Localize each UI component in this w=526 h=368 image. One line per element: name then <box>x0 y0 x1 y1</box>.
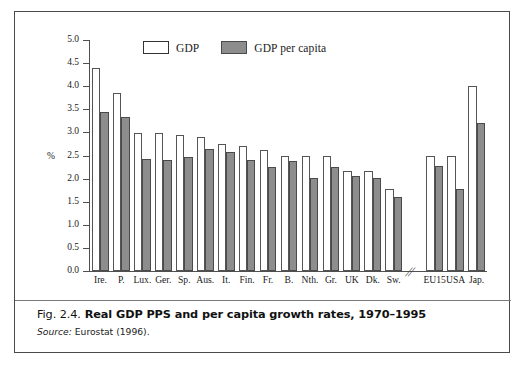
y-tick-label: 0.0 <box>53 265 79 275</box>
y-tick-label: 4.5 <box>53 57 79 67</box>
bar-gdp-per-capita <box>100 112 108 271</box>
bar-gdp <box>364 171 372 271</box>
y-tick-mark <box>83 40 89 41</box>
bar-gdp-per-capita <box>331 167 339 271</box>
bar-group <box>132 40 153 271</box>
bar-gdp <box>197 137 205 271</box>
caption-divider <box>15 300 511 301</box>
y-tick-mark <box>83 202 89 203</box>
caption-title-line: Fig. 2.4. Real GDP PPS and per capita gr… <box>37 308 487 321</box>
bar-group <box>383 40 404 271</box>
y-tick-label: 5.0 <box>53 34 79 44</box>
bar-group <box>424 40 445 271</box>
y-tick-mark <box>83 109 89 110</box>
bar-gdp <box>92 68 100 271</box>
y-tick-label: 3.5 <box>53 103 79 113</box>
bar-gdp <box>343 171 351 271</box>
y-tick-mark <box>83 179 89 180</box>
bar-group <box>445 40 466 271</box>
bar-gdp-per-capita <box>142 159 150 271</box>
x-tick-label: Jap. <box>464 274 490 285</box>
bar-group <box>216 40 237 271</box>
bar-gdp-per-capita <box>205 149 213 271</box>
y-tick-mark <box>83 248 89 249</box>
y-tick-mark <box>83 86 89 87</box>
bar-gdp <box>155 133 163 271</box>
source-text: Eurostat (1996). <box>75 326 150 337</box>
bar-group <box>153 40 174 271</box>
bar-group <box>466 40 487 271</box>
y-tick-label: 2.0 <box>53 173 79 183</box>
x-axis-labels: Ire.P.Lux.Ger.Sp.Aus.It.Fin.Fr.B.Nth.Gr.… <box>90 274 487 290</box>
x-tick-label: Sw. <box>381 274 407 285</box>
y-tick-mark <box>83 132 89 133</box>
y-tick-mark <box>83 63 89 64</box>
y-tick-mark <box>83 156 89 157</box>
y-tick-label: 4.0 <box>53 80 79 90</box>
bar-group <box>111 40 132 271</box>
bar-series-area <box>90 40 487 271</box>
figure-caption: Fig. 2.4. Real GDP PPS and per capita gr… <box>37 308 487 337</box>
bar-gdp-per-capita <box>184 157 192 271</box>
bar-gdp <box>302 156 310 271</box>
y-tick-label: 1.5 <box>53 196 79 206</box>
bar-group <box>299 40 320 271</box>
bar-group <box>237 40 258 271</box>
bar-group <box>320 40 341 271</box>
bar-gdp <box>426 156 434 272</box>
y-tick-label: 2.5 <box>53 150 79 160</box>
plot-region: GDP GDP per capita % 0.00.51.01.52.02.53… <box>15 12 511 282</box>
y-tick-mark <box>83 225 89 226</box>
bar-gdp-per-capita <box>247 160 255 271</box>
bar-gdp-per-capita <box>268 167 276 271</box>
bar-gdp <box>385 189 393 271</box>
bar-group <box>279 40 300 271</box>
bar-gdp-per-capita <box>477 123 485 271</box>
bar-group <box>341 40 362 271</box>
bar-gdp <box>260 150 268 271</box>
bar-gdp <box>447 156 455 272</box>
bar-group <box>258 40 279 271</box>
bar-gdp <box>176 135 184 271</box>
bar-gdp <box>113 93 121 271</box>
bar-group <box>362 40 383 271</box>
bar-gdp <box>218 144 226 271</box>
bar-gdp-per-capita <box>456 189 464 271</box>
bar-gdp-per-capita <box>310 178 318 271</box>
bar-gdp-per-capita <box>394 197 402 271</box>
y-tick-label: 3.0 <box>53 126 79 136</box>
bar-gdp-per-capita <box>352 176 360 271</box>
caption-title-text: Real GDP PPS and per capita growth rates… <box>85 308 426 321</box>
bar-group <box>195 40 216 271</box>
y-tick-mark <box>83 271 89 272</box>
y-tick-label: 0.5 <box>53 242 79 252</box>
bar-gdp-per-capita <box>373 178 381 271</box>
bar-gdp <box>468 86 476 271</box>
bar-group <box>90 40 111 271</box>
bar-gdp-per-capita <box>163 160 171 271</box>
bar-gdp <box>281 156 289 272</box>
bar-gdp <box>134 133 142 271</box>
figure-container: GDP GDP per capita % 0.00.51.01.52.02.53… <box>14 11 510 353</box>
x-axis-line <box>89 271 487 272</box>
figure-number: Fig. 2.4. <box>37 308 81 321</box>
bar-gdp <box>323 156 331 271</box>
bar-gdp <box>239 146 247 271</box>
bar-group <box>174 40 195 271</box>
bar-gdp-per-capita <box>226 152 234 271</box>
source-label: Source: <box>37 326 72 337</box>
bar-gdp-per-capita <box>121 117 129 271</box>
bar-gdp-per-capita <box>435 166 443 271</box>
bar-gdp-per-capita <box>289 161 297 271</box>
figure-source-line: Source: Eurostat (1996). <box>37 326 487 337</box>
y-tick-label: 1.0 <box>53 219 79 229</box>
